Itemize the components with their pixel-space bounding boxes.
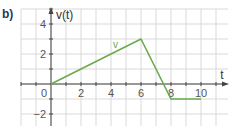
tick-labels: 024681042−2v(t)t [33, 8, 224, 120]
x-tick-label: 0 [41, 87, 47, 99]
y-axis-arrow-icon [49, 7, 54, 14]
y-tick-label: −2 [33, 108, 46, 120]
y-tick-label: 4 [40, 18, 46, 30]
x-axis-label: t [220, 68, 224, 82]
y-tick-label: 2 [40, 48, 46, 60]
x-tick-label: 6 [138, 87, 144, 99]
x-axis-arrow-icon [222, 82, 229, 87]
x-tick-label: 2 [78, 87, 84, 99]
axes [21, 7, 229, 126]
x-tick-label: 4 [108, 87, 114, 99]
velocity-time-chart: 024681042−2v(t)t v [0, 0, 230, 126]
y-axis-label: v(t) [56, 8, 73, 22]
series-annotation: v [113, 39, 118, 50]
x-tick-label: 10 [195, 87, 207, 99]
grid [21, 9, 228, 126]
